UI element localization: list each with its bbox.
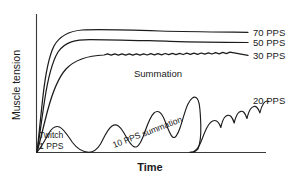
label-20-pps: 20 PPS (253, 95, 285, 106)
label-summation: Summation (134, 68, 182, 79)
label-30-pps: 30 PPS (253, 50, 285, 61)
label-10-pps-summation: 10 PPS summation (111, 114, 183, 150)
label-50-pps: 50 PPS (253, 37, 285, 48)
curve-20-pps (190, 101, 269, 152)
curve-10-pps-summation (88, 97, 201, 152)
label-twitch-line1: Twitch (39, 130, 64, 140)
label-70-pps: 70 PPS (253, 27, 285, 38)
chart-figure: 70 PPS 50 PPS 30 PPS 20 PPS Summation Tw… (0, 0, 300, 179)
y-axis-label: Muscle tension (10, 50, 22, 120)
label-twitch-line2: 1 PPS (39, 141, 64, 151)
x-axis-label: Time (137, 161, 162, 173)
muscle-tension-chart: 70 PPS 50 PPS 30 PPS 20 PPS Summation Tw… (0, 0, 300, 179)
